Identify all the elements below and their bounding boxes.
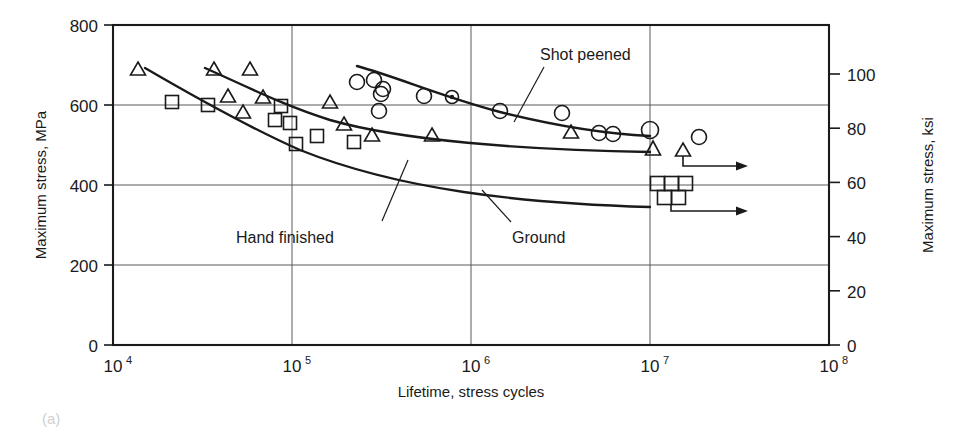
runout-arrows	[671, 156, 748, 216]
right-tick-label-100: 100	[847, 66, 875, 85]
y-axis-title-left: Maximum stress, MPa	[32, 110, 49, 259]
circle-marker	[692, 130, 707, 145]
x-tick-exponent-1e7: 7	[663, 354, 669, 366]
x-tick-exponent-1e6: 6	[484, 354, 490, 366]
square-marker	[679, 177, 693, 191]
left-tick-label-400: 400	[70, 177, 98, 196]
circle-marker-dot-center	[451, 96, 454, 99]
right-tick-label-60: 60	[847, 174, 866, 193]
circle-marker	[350, 75, 365, 90]
panel-label: (a)	[42, 410, 60, 427]
x-tick-exponent-1e8: 8	[842, 354, 848, 366]
triangle-marker	[131, 62, 146, 75]
leader-shot-peened	[514, 67, 544, 122]
x-tick-mantissa-1e8: 10	[820, 357, 839, 376]
left-tick-label-200: 200	[70, 257, 98, 276]
series-ground-markers	[166, 96, 693, 205]
runout-arrow-upper-path	[683, 156, 737, 166]
x-tick-exponent-1e5: 5	[305, 354, 311, 366]
square-marker	[269, 114, 282, 127]
circle-marker	[417, 89, 432, 104]
right-tick-label-20: 20	[847, 283, 866, 302]
annotation-labels: Shot peened Hand finished Ground	[236, 46, 631, 246]
x-axis-title: Lifetime, stress cycles	[398, 383, 545, 400]
right-axis-ticks	[829, 74, 840, 345]
arrow-head-icon	[736, 207, 748, 216]
triangle-marker	[236, 105, 251, 118]
runout-arrow-lower	[671, 205, 748, 216]
triangle-marker	[323, 95, 338, 108]
x-tick-mantissa-1e5: 10	[283, 357, 302, 376]
leader-ground	[482, 190, 511, 222]
series-shot-peened-markers	[350, 73, 707, 145]
left-tick-label-800: 800	[70, 17, 98, 36]
annotation-ground: Ground	[512, 229, 565, 246]
circle-marker	[367, 73, 382, 88]
left-axis-tick-labels: 800 600 400 200 0	[70, 17, 98, 356]
x-tick-label-1e6: 10 6	[462, 354, 491, 376]
square-marker	[665, 177, 679, 191]
square-marker	[651, 177, 665, 191]
square-marker	[348, 136, 361, 149]
curve-hand-finished	[205, 68, 650, 152]
right-tick-label-40: 40	[847, 229, 866, 248]
circle-marker	[555, 106, 570, 121]
annotation-shot-peened: Shot peened	[540, 46, 631, 63]
runout-arrow-lower-path	[671, 205, 737, 212]
y-axis-title-right: Maximum stress, ksi	[919, 117, 936, 253]
square-marker	[284, 117, 297, 130]
x-tick-label-1e7: 10 7	[641, 354, 670, 376]
x-tick-mantissa-1e4: 10	[104, 357, 123, 376]
sn-curve-chart: 800 600 400 200 0 Maximum stress, MPa 0 …	[0, 0, 973, 431]
right-axis-tick-labels: 0 20 40 60 80 100	[847, 66, 875, 356]
right-tick-label-80: 80	[847, 120, 866, 139]
x-tick-label-1e8: 10 8	[820, 354, 849, 376]
triangle-marker	[243, 62, 258, 75]
circle-marker	[372, 104, 387, 119]
runout-arrow-upper	[683, 156, 748, 171]
leader-hand-finished	[382, 160, 408, 221]
square-marker	[672, 191, 686, 205]
circle-marker	[374, 87, 389, 102]
triangle-marker	[221, 89, 236, 102]
left-tick-label-600: 600	[70, 97, 98, 116]
curve-shot-peened	[357, 66, 650, 136]
square-marker	[658, 191, 672, 205]
x-tick-exponent-1e4: 4	[126, 354, 132, 366]
left-tick-label-0: 0	[89, 337, 98, 356]
figure-container: 800 600 400 200 0 Maximum stress, MPa 0 …	[0, 0, 973, 431]
right-tick-label-0: 0	[847, 337, 856, 356]
x-tick-label-1e4: 10 4	[104, 354, 133, 376]
x-tick-mantissa-1e6: 10	[462, 357, 481, 376]
square-marker	[311, 130, 324, 143]
x-tick-label-1e5: 10 5	[283, 354, 312, 376]
arrow-head-icon	[736, 162, 748, 171]
x-axis-tick-labels: 10 4 10 5 10 6 10 7 10 8	[104, 354, 849, 376]
x-tick-mantissa-1e7: 10	[641, 357, 660, 376]
left-axis-ticks	[104, 25, 113, 345]
square-marker	[166, 96, 179, 109]
triangle-marker	[676, 143, 691, 156]
annotation-hand-finished: Hand finished	[236, 229, 334, 246]
